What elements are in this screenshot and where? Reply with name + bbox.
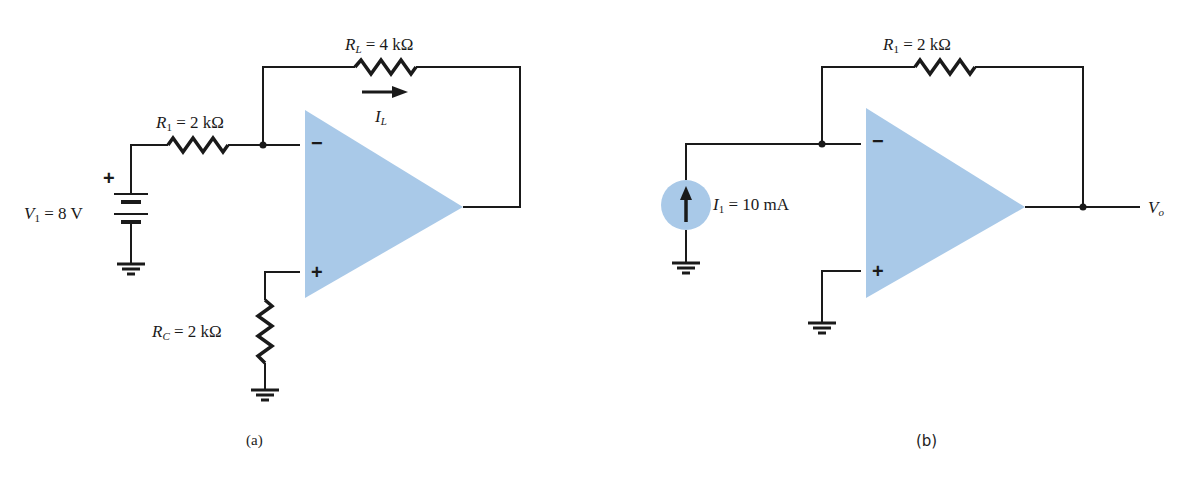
caption-b: (b) [916,432,937,450]
opamp-b-inverting-sign: − [872,131,884,151]
wire-a-noninverting [265,272,300,300]
junction-dot [819,141,826,148]
label-v1: V1 = 8 V [24,205,83,224]
ground-icon [672,263,700,273]
ground-icon [251,390,279,400]
resistor-r1-b [915,60,975,74]
label-r1-a: R1 = 2 kΩ [156,114,224,133]
resistor-r1-a [168,138,228,152]
wire-b-noninverting [822,271,861,322]
junction-dot [260,142,267,149]
resistor-rl [355,60,416,74]
label-rc: RC = 2 kΩ [152,323,222,342]
label-r1-b: R1 = 2 kΩ [883,36,951,55]
arrow-head-icon [392,86,408,98]
opamp-a [305,110,463,298]
caption-a: (a) [246,432,263,449]
label-i1: I1 = 10 mA [713,196,789,215]
circuit-diagram [0,0,1191,488]
opamp-b-noninverting-sign: + [872,261,884,281]
opamp-a-noninverting-sign: + [311,262,323,282]
junction-dot [1080,204,1087,211]
resistor-rc [258,300,272,363]
ground-icon [117,264,145,274]
wire-a-source-top [131,145,168,194]
opamp-b [866,108,1025,298]
battery-plus-sign: + [103,168,115,188]
label-vo: Vo [1148,199,1164,218]
opamp-a-inverting-sign: − [311,133,323,153]
wire-b-source-top [686,144,861,180]
wire-a-feedback-right [416,67,520,207]
ground-icon [808,323,836,333]
label-rl: RL = 4 kΩ [345,36,414,55]
label-il: IL [375,108,387,127]
